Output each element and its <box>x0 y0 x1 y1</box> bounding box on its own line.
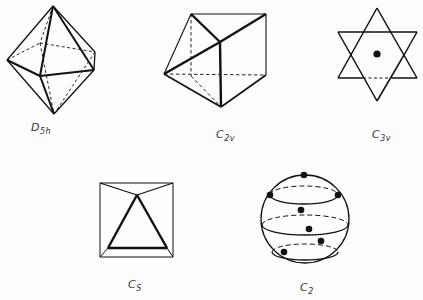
symmetry-figure: D5h C2v C3v CS C2 <box>0 0 423 300</box>
label-d5h: D5h <box>31 121 51 136</box>
label-cs: CS <box>128 278 142 293</box>
figure-drawing <box>0 0 423 300</box>
c2v-polyhedron <box>164 14 266 107</box>
c3v-hexagram <box>338 8 417 101</box>
label-c3v: C3v <box>372 128 391 143</box>
cs-figure <box>100 183 173 257</box>
c2-sphere <box>261 172 349 263</box>
label-c2: C2 <box>300 281 314 296</box>
center-dot <box>373 50 380 57</box>
d5h-polyhedron <box>7 6 95 114</box>
label-c2v: C2v <box>216 128 235 143</box>
